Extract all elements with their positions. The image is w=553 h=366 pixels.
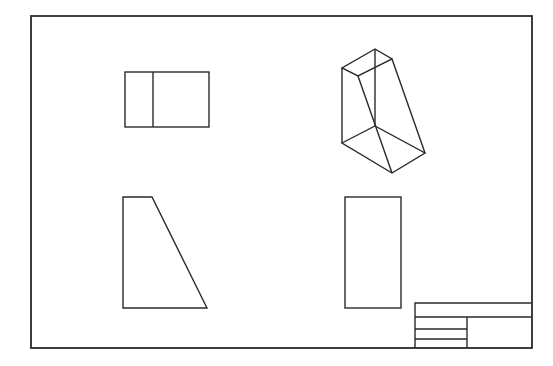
iso-top-face [342, 49, 392, 76]
top-view-outline [125, 72, 209, 127]
side-view [345, 197, 401, 308]
isometric-view [342, 49, 425, 173]
top-view [125, 72, 209, 127]
title-block-outline [415, 303, 531, 348]
title-block [415, 303, 531, 348]
iso-right-slant-edge [392, 59, 425, 153]
sheet-border [31, 16, 532, 348]
front-view [123, 197, 207, 308]
drawing-sheet [0, 0, 553, 366]
